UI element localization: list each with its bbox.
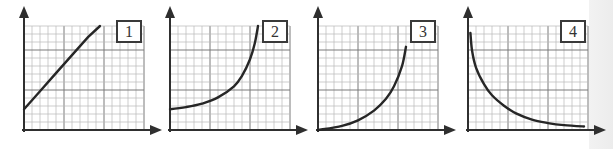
y-axis-arrow-icon [19, 6, 29, 18]
graph-number-label: 3 [410, 20, 436, 43]
graph-2-curve [170, 26, 258, 109]
y-axis-arrow-icon [463, 6, 473, 18]
graph-4-curve [470, 33, 584, 127]
graph-panel-3: 3 [298, 0, 448, 149]
graph-3-curve [318, 47, 406, 130]
graph-panel-1: 1 [4, 0, 154, 149]
graph-number-label: 2 [262, 20, 288, 43]
graph-number-label: 4 [560, 20, 586, 43]
graph-number-label: 1 [116, 20, 142, 43]
y-axis-arrow-icon [165, 6, 175, 18]
x-axis-arrow-icon [594, 125, 606, 135]
graph-panel-4: 4 [448, 0, 598, 149]
y-axis-arrow-icon [313, 6, 323, 18]
graph-1-curve [24, 26, 100, 109]
graph-panel-2: 2 [150, 0, 300, 149]
